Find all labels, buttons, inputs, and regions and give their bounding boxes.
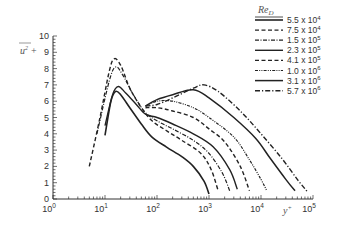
x-tick-label: 105 <box>302 202 316 214</box>
legend: ReD5.5 x 1047.5 x 1041.5 x 1052.3 x 1054… <box>255 4 321 96</box>
chart: 012345678910100101102103104105 ReD5.5 x … <box>0 0 341 233</box>
y-axis-label: u2+ <box>20 45 37 56</box>
legend-label: 7.5 x 104 <box>287 25 321 36</box>
y-tick-label: 10 <box>39 31 49 41</box>
y-tick-label: 2 <box>44 161 49 171</box>
series-lines <box>89 59 308 195</box>
legend-label: 5.7 x 106 <box>287 85 321 96</box>
legend-title: ReD <box>257 4 274 17</box>
series-line <box>105 86 237 189</box>
series-line <box>105 91 209 194</box>
y-tick-label: 0 <box>44 194 49 204</box>
series-line <box>146 90 296 191</box>
y-tick-label: 6 <box>44 96 49 106</box>
y-tick-label: 3 <box>44 145 49 155</box>
x-axis-label: y+ <box>282 204 292 216</box>
y-tick-label: 1 <box>44 178 49 188</box>
y-tick-label: 7 <box>44 80 49 90</box>
axes: 012345678910100101102103104105 <box>39 31 316 214</box>
x-tick-label: 104 <box>250 202 264 214</box>
legend-label: 4.1 x 105 <box>287 55 321 66</box>
legend-label: 1.0 x 106 <box>287 65 321 76</box>
y-tick-label: 4 <box>44 129 49 139</box>
legend-label: 2.3 x 105 <box>287 45 321 56</box>
legend-label: 5.5 x 104 <box>287 15 321 26</box>
x-tick-label: 101 <box>94 202 108 214</box>
series-line <box>89 59 218 191</box>
y-tick-label: 5 <box>44 113 49 123</box>
x-tick-label: 103 <box>198 202 212 214</box>
y-tick-label: 9 <box>44 47 49 57</box>
axis-labels: u2+y+ <box>19 43 292 216</box>
legend-label: 3.1 x 106 <box>287 75 321 86</box>
x-tick-label: 100 <box>42 202 56 214</box>
x-tick-label: 102 <box>146 202 160 214</box>
y-tick-label: 8 <box>44 64 49 74</box>
legend-label: 1.5 x 105 <box>287 35 321 46</box>
